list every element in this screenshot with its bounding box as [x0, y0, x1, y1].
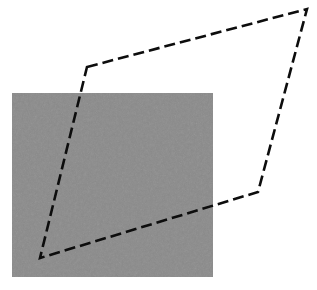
gray-rectangle-group	[12, 93, 213, 277]
figure-svg	[0, 0, 317, 290]
figure-canvas	[0, 0, 317, 290]
gray-rectangle-noise-layer-coarse	[12, 93, 213, 277]
